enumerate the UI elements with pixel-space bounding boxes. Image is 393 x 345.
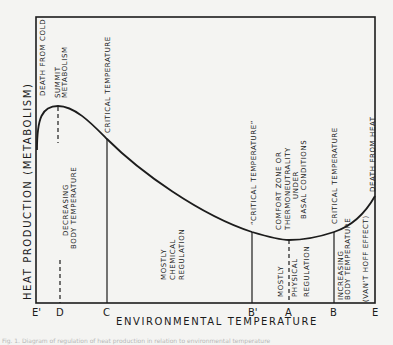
label-body-temperature-inc: BODY TEMPERATURE (344, 218, 352, 300)
tick-b-prime: B' (248, 307, 258, 318)
heat-production-curve (37, 106, 375, 240)
figure-caption: Fig. 1. Diagram of regulation of heat pr… (2, 337, 270, 345)
label-physical: PHYSICAL (291, 258, 299, 297)
label-chemical: CHEMICAL (169, 239, 177, 280)
tick-d: D (56, 307, 64, 318)
label-mostly-phys: MOSTLY (277, 266, 285, 297)
tick-a: A (285, 307, 292, 318)
label-decreasing: DECREASING (62, 184, 70, 236)
label-basal-conditions: BASAL CONDITIONS (300, 140, 308, 219)
tick-e-prime: E' (32, 307, 41, 318)
label-regulation-phys: REGULATION (303, 246, 311, 297)
label-comfort-zone: COMFORT ZONE OR (275, 152, 283, 230)
label-body-temperature-dec: BODY TEMPERATURE (70, 167, 78, 249)
label-vant-hoff-effect: (VAN'T HOFF EFFECT) (362, 215, 370, 302)
label-death-from-heat: DEATH FROM HEAT (369, 116, 377, 192)
y-axis-label: HEAT PRODUCTION (METABOLISM) (22, 83, 33, 300)
label-critical-temperature-b: CRITICAL TEMPERATURE (331, 127, 339, 224)
label-death-from-cold: DEATH FROM COLD (39, 19, 47, 96)
label-metabolism: METABOLISM (61, 46, 69, 98)
tick-c: C (103, 307, 110, 318)
label-under: UNDER (292, 171, 300, 199)
plot-frame (36, 17, 375, 303)
label-critical-temperature-b-prime: “CRITICAL TEMPERATURE” (250, 120, 258, 225)
thermoregulation-diagram: HEAT PRODUCTION (METABOLISM) ENVIRONMENT… (0, 0, 393, 345)
label-mostly-chem: MOSTLY (160, 249, 168, 280)
tick-e: E (372, 307, 378, 318)
label-thermoneutrality: THERMONEUTRALITY (284, 147, 292, 231)
tick-b: B (330, 307, 337, 318)
label-regulation-chem: REGULATION (178, 229, 186, 280)
label-critical-temperature-c: CRITICAL TEMPERATURE (104, 36, 112, 133)
